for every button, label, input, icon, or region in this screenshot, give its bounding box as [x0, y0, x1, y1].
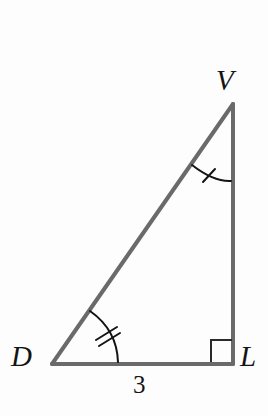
right-angle-mark-L: [211, 340, 232, 362]
triangle-diagram-svg: [0, 0, 268, 416]
vertex-label-d: D: [11, 342, 32, 371]
side-DV: [52, 104, 233, 364]
vertex-label-v: V: [216, 66, 234, 95]
side-length-label-dl: 3: [133, 372, 146, 397]
geometry-figure: V D L 3: [0, 0, 268, 416]
angle-tick-D-2: [99, 333, 120, 346]
angle-tick-V-1: [203, 169, 215, 182]
vertex-label-l: L: [240, 342, 256, 371]
